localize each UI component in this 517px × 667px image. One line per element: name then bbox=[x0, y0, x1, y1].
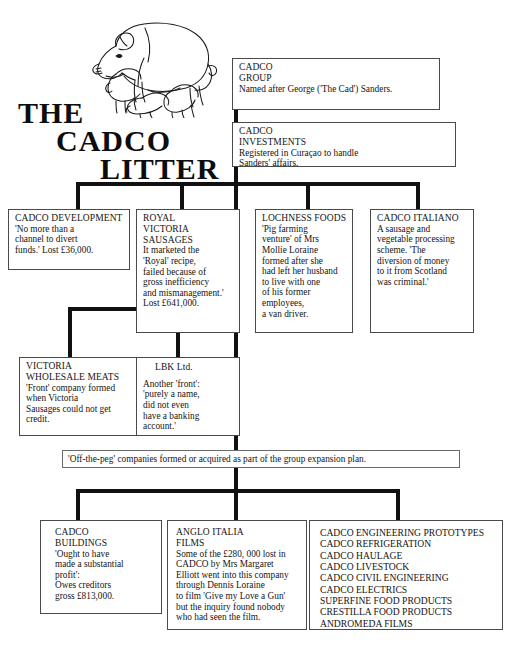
node-cadco-development[interactable]: CADCO DEVELOPMENT 'No more than a channe… bbox=[8, 209, 130, 270]
node-body-line: to live with one bbox=[262, 277, 347, 288]
node-cadco-group[interactable]: CADCO GROUP Named after George ('The Cad… bbox=[232, 58, 440, 110]
node-body-line: Sausages could not get bbox=[26, 404, 133, 415]
node-title-line: BUILDINGS bbox=[55, 538, 156, 549]
node-title-line: LOCHNESS FOODS bbox=[262, 213, 347, 224]
list-item: SUPERFINE FOOD PRODUCTS bbox=[320, 595, 497, 606]
connector-drop-cadco-buildings bbox=[76, 489, 80, 520]
node-title-line: CADCO bbox=[239, 126, 450, 137]
node-body-line: profit': bbox=[55, 570, 156, 581]
node-title-line: CADCO ITALIANO bbox=[377, 213, 468, 224]
list-item: CADCO REFRIGERATION bbox=[320, 538, 497, 549]
node-body-line: vegetable processing bbox=[377, 234, 468, 245]
node-body-line: channel to divert bbox=[15, 234, 124, 245]
node-title-line: SAUSAGES bbox=[143, 235, 234, 246]
node-body-line: 'No more than a bbox=[15, 224, 124, 235]
list-item: CADCO CIVIL ENGINEERING bbox=[320, 572, 497, 583]
node-body-line: Owes creditors bbox=[55, 580, 156, 591]
connector-drop-royal-victoria bbox=[180, 182, 184, 209]
node-body-line: 'purely a name, bbox=[143, 389, 234, 400]
node-body-line: and mismanagement.' bbox=[143, 288, 234, 299]
connector-rvs-elbow-horizontal bbox=[68, 307, 138, 311]
node-lochness-foods[interactable]: LOCHNESS FOODS 'Pig farming venture' of … bbox=[255, 209, 353, 333]
node-body-line: Lost £641,000. bbox=[143, 298, 234, 309]
list-item: CRESTILLA FOOD PRODUCTS bbox=[320, 606, 497, 617]
node-title-line: GROUP bbox=[239, 73, 434, 84]
node-title-line: CADCO DEVELOPMENT bbox=[15, 213, 124, 224]
node-body-line: CADCO by Mrs Margaret bbox=[176, 559, 301, 570]
title-line-3: LITTER bbox=[100, 152, 219, 186]
node-body-line: Elliott went into this company bbox=[176, 570, 301, 581]
node-cadco-buildings[interactable]: CADCO BUILDINGS 'Ought to have made a su… bbox=[40, 520, 162, 614]
node-body-line: 'Ought to have bbox=[55, 549, 156, 560]
connector-level4-bus bbox=[76, 489, 400, 493]
node-body-line: formed after she bbox=[262, 256, 347, 267]
list-item: CADCO ENGINEERING PROTOTYPES bbox=[320, 527, 497, 538]
node-body-line: gross inefficiency bbox=[143, 277, 234, 288]
connector-level2-bus bbox=[76, 182, 420, 186]
node-body-line: Some of the £280, 000 lost in bbox=[176, 549, 301, 560]
node-anglo-italia-films[interactable]: ANGLO ITALIA FILMS Some of the £280, 000… bbox=[167, 520, 307, 630]
node-body-line: Sanders' affairs. bbox=[239, 158, 450, 169]
node-body-line: made a substantial bbox=[55, 559, 156, 570]
node-lbk-ltd[interactable]: LBK Ltd. Another 'front': 'purely a name… bbox=[136, 357, 240, 436]
node-body-line: It marketed the bbox=[143, 245, 234, 256]
node-title-line: CADCO bbox=[55, 527, 156, 538]
node-body-line: account.' bbox=[143, 421, 234, 432]
connector-drop-lbk bbox=[176, 331, 180, 357]
node-title-line: FILMS bbox=[176, 538, 301, 549]
node-body-line: funds.' Lost £36,000. bbox=[15, 245, 124, 256]
node-body-line: did not even bbox=[143, 400, 234, 411]
node-body-line: Named after George ('The Cad') Sanders. bbox=[239, 84, 434, 95]
node-body-line: Mollie Loraine bbox=[262, 245, 347, 256]
node-body-line: but the inquiry found nobody bbox=[176, 602, 301, 613]
list-item: ANDROMEDA FILMS bbox=[320, 618, 497, 629]
node-body-line: gross £813,000. bbox=[55, 591, 156, 602]
connector-drop-cadco-development bbox=[76, 182, 80, 209]
node-body-line: Another 'front': bbox=[143, 379, 234, 390]
node-title-line: ROYAL bbox=[143, 213, 234, 224]
node-body-line: Registered in Curaçao to handle bbox=[239, 148, 450, 159]
node-title-line: WHOLESALE MEATS bbox=[26, 372, 133, 383]
node-body-line: A sausage and bbox=[377, 224, 468, 235]
node-body-line: scheme. 'The bbox=[377, 245, 468, 256]
connector-drop-victoria-wholesale bbox=[68, 307, 72, 357]
connector-drop-cadco-italiano bbox=[416, 182, 420, 209]
connector-drop-lochness bbox=[306, 182, 310, 209]
node-body-line: of his former bbox=[262, 287, 347, 298]
node-title-line: VICTORIA bbox=[26, 361, 133, 372]
node-royal-victoria-sausages[interactable]: ROYAL VICTORIA SAUSAGES It marketed the … bbox=[136, 209, 240, 333]
node-title-line: ANGLO ITALIA bbox=[176, 527, 301, 538]
node-cadco-investments[interactable]: CADCO INVESTMENTS Registered in Curaçao … bbox=[232, 122, 456, 167]
title-block: THE CADCO LITTER bbox=[0, 0, 230, 175]
node-body-line: diversion of money bbox=[377, 256, 468, 267]
node-body-line: employees, bbox=[262, 298, 347, 309]
node-body-line: through Dennis Loraine bbox=[176, 580, 301, 591]
connector-banner-to-bottom bbox=[234, 468, 238, 520]
node-body-line: was criminal.' bbox=[377, 277, 468, 288]
off-the-peg-banner: 'Off-the-peg' companies formed or acquir… bbox=[62, 450, 460, 468]
node-body-line: a van driver. bbox=[262, 309, 347, 320]
node-subsidiary-list[interactable]: CADCO ENGINEERING PROTOTYPES CADCO REFRI… bbox=[309, 520, 503, 630]
node-body-line: to it from Scotland bbox=[377, 266, 468, 277]
connector-drop-subsidiary-list bbox=[396, 489, 400, 520]
node-cadco-italiano[interactable]: CADCO ITALIANO A sausage and vegetable p… bbox=[370, 209, 474, 333]
node-body-line: to film 'Give my Love a Gun' bbox=[176, 591, 301, 602]
node-body-line: who had seen the film. bbox=[176, 612, 301, 623]
node-body-line: had left her husband bbox=[262, 266, 347, 277]
connector-group-to-investments bbox=[234, 110, 238, 122]
node-body-line: 'Royal' recipe, bbox=[143, 256, 234, 267]
node-body-line: 'Front' company formed bbox=[26, 383, 133, 394]
list-item: CADCO LIVESTOCK bbox=[320, 561, 497, 572]
node-title-line: LBK Ltd. bbox=[143, 362, 234, 373]
node-body-line: 'Pig farming bbox=[262, 224, 347, 235]
node-title-line: CADCO bbox=[239, 62, 434, 73]
node-title-line: VICTORIA bbox=[143, 224, 234, 235]
diagram-canvas: THE CADCO LITTER CADCO GROUP Named after… bbox=[0, 0, 517, 667]
list-item: CADCO ELECTRICS bbox=[320, 584, 497, 595]
sow-with-piglets-illustration bbox=[72, 6, 222, 118]
node-body-line: when Victoria bbox=[26, 393, 133, 404]
node-victoria-wholesale-meats[interactable]: VICTORIA WHOLESALE MEATS 'Front' company… bbox=[19, 357, 139, 436]
list-item: CADCO HAULAGE bbox=[320, 550, 497, 561]
node-body-line: have a banking bbox=[143, 411, 234, 422]
node-body-line: failed because of bbox=[143, 267, 234, 278]
